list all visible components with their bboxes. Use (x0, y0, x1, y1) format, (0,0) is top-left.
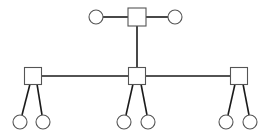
circle-node-root-l (89, 10, 103, 24)
edge-line (243, 84, 249, 115)
circle-node-root-r (168, 10, 182, 24)
circle-node-mid-a (117, 115, 131, 129)
edge-line (37, 84, 42, 115)
edge-line (141, 84, 147, 115)
square-node-root (128, 8, 146, 26)
circle-node-right-b (243, 115, 257, 129)
circle-node-left-b (36, 115, 50, 129)
circle-node-left-a (13, 115, 27, 129)
square-node-right (231, 68, 248, 85)
edge-line (22, 84, 30, 115)
circle-node-mid-b (141, 115, 155, 129)
circle-node-right-a (219, 115, 233, 129)
edges-layer (22, 17, 249, 115)
edge-line (228, 84, 235, 115)
nodes-layer (13, 8, 257, 129)
square-node-left (25, 68, 42, 85)
square-node-mid (129, 68, 146, 85)
tree-diagram (0, 0, 264, 135)
edge-line (126, 84, 133, 115)
